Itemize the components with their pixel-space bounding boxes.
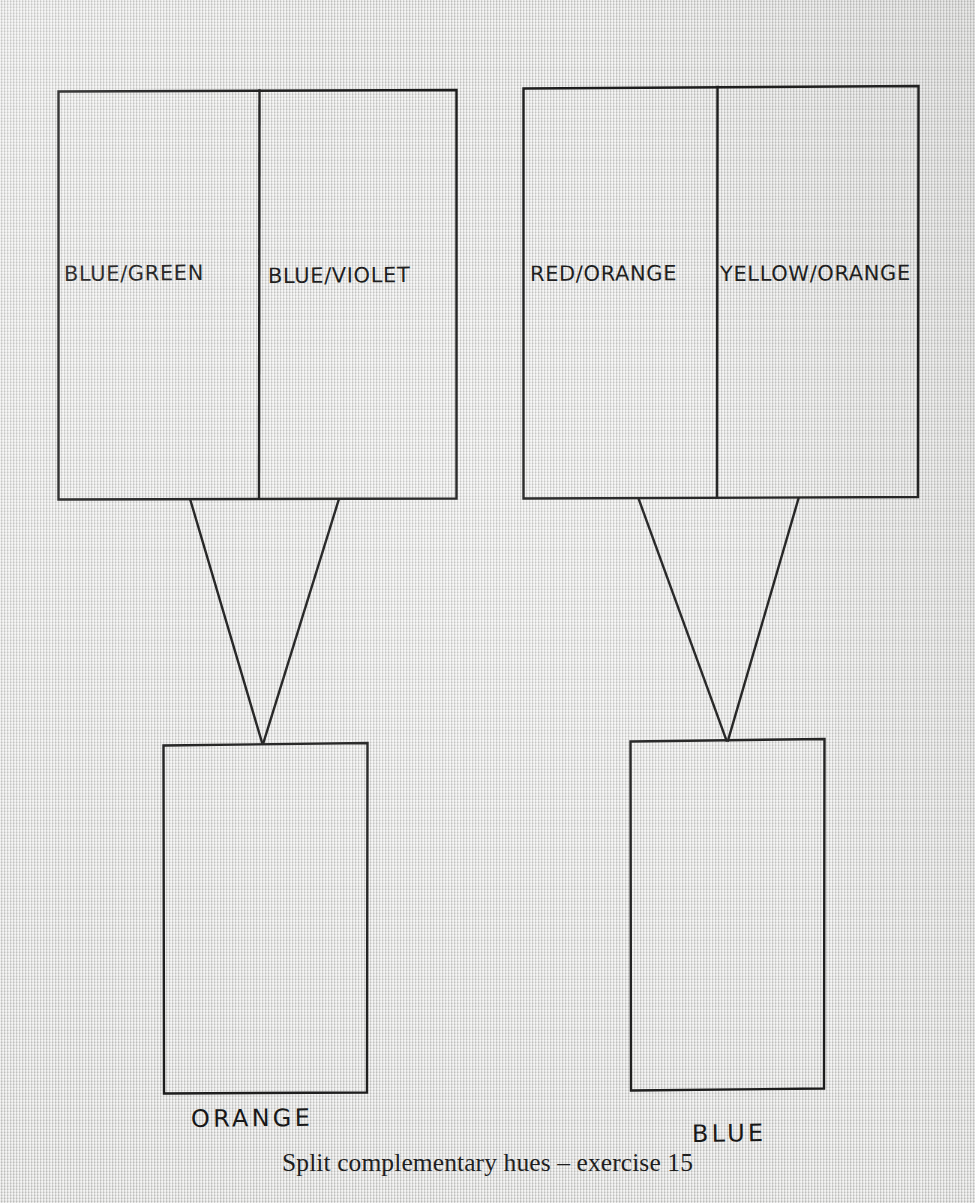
right-result-box-outline xyxy=(631,739,825,1091)
connector-yellow-orange-to-blue xyxy=(728,499,799,741)
result-label-blue: BLUE xyxy=(692,1119,767,1148)
swatch-label-yellow-orange: YELLOW/ORANGE xyxy=(720,261,911,286)
left-result-box-outline xyxy=(164,743,368,1094)
swatch-label-blue-violet: BLUE/VIOLET xyxy=(268,263,410,288)
diagram-svg xyxy=(0,0,975,1203)
left-swatch-block-outline xyxy=(59,90,457,500)
swatch-label-red-orange: RED/ORANGE xyxy=(530,261,677,286)
right-swatch-block-outline xyxy=(524,86,919,499)
diagram-drawing xyxy=(0,0,975,1203)
connector-red-orange-to-blue xyxy=(639,499,727,741)
connector-blue-green-to-orange xyxy=(191,501,263,743)
left-swatch-divider xyxy=(259,91,260,499)
result-label-orange: ORANGE xyxy=(191,1104,313,1133)
figure-page: BLUE/GREEN BLUE/VIOLET RED/ORANGE YELLOW… xyxy=(0,0,975,1203)
right-swatch-divider xyxy=(717,87,718,498)
figure-caption: Split complementary hues – exercise 15 xyxy=(0,1148,975,1178)
connector-blue-violet-to-orange xyxy=(264,501,339,743)
swatch-label-blue-green: BLUE/GREEN xyxy=(64,261,204,286)
